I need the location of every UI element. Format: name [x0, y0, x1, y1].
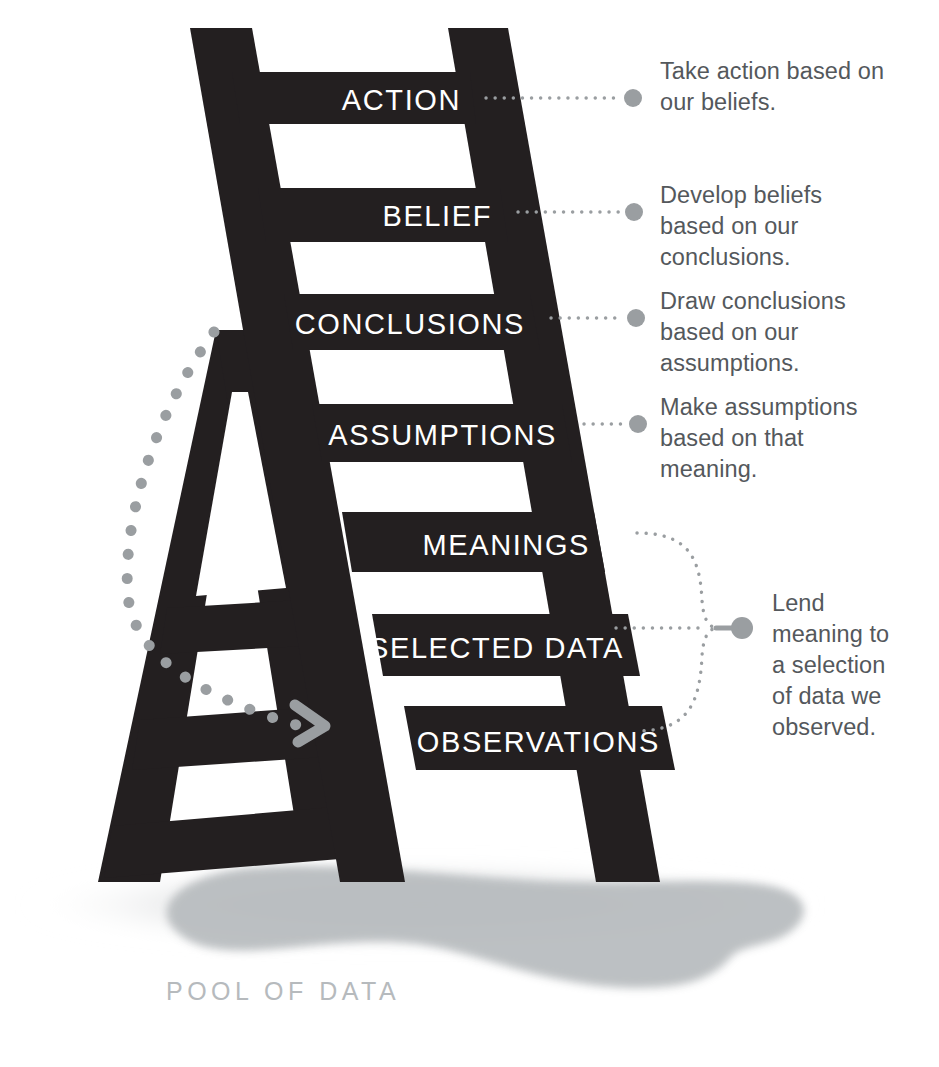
connector-dot-belief: [625, 203, 643, 221]
annotation-action: Take action based on our beliefs.: [660, 56, 910, 118]
annotation-lower-group: Lend meaning to a selection of data we o…: [772, 588, 932, 743]
connector-bracket-lower: [637, 533, 716, 731]
connector-dot-action: [624, 89, 642, 107]
ladder-of-inference-diagram: POOL OF DATA: [0, 0, 939, 1067]
connector-dot-conclusions: [627, 309, 645, 327]
annotation-conclusions: Draw conclusions based on our assumption…: [660, 286, 900, 379]
annotation-belief: Develop beliefs based on our conclusions…: [660, 180, 890, 273]
feedback-loop-arrow: [127, 332, 300, 726]
connector-dot-assumptions: [629, 415, 647, 433]
annotation-assumptions: Make assumptions based on that meaning.: [660, 392, 910, 485]
connector-layer: [0, 0, 939, 1067]
